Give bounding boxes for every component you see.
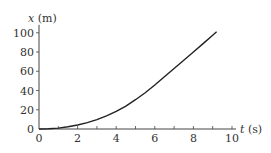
tick-labels: 0246810020406080100 xyxy=(13,27,239,145)
y-tick-label: 20 xyxy=(20,104,34,117)
data-line xyxy=(39,32,217,129)
y-tick-label: 80 xyxy=(20,46,34,59)
y-tick-label: 0 xyxy=(27,123,34,136)
x-axis-label: t (s) xyxy=(240,123,262,136)
x-tick-label: 2 xyxy=(74,132,81,145)
x-tick-label: 6 xyxy=(151,132,158,145)
x-tick-label: 4 xyxy=(113,132,120,145)
x-tick-label: 0 xyxy=(36,132,43,145)
x-tick-label: 8 xyxy=(190,132,197,145)
y-axis-label: x (m) xyxy=(28,12,57,25)
position-time-chart: 0246810020406080100 x (m) t (s) xyxy=(0,0,271,153)
y-tick-label: 100 xyxy=(13,27,34,40)
x-tick-label: 10 xyxy=(225,132,239,145)
y-tick-label: 40 xyxy=(20,85,34,98)
y-tick-label: 60 xyxy=(20,65,34,78)
tick-marks xyxy=(36,33,232,129)
